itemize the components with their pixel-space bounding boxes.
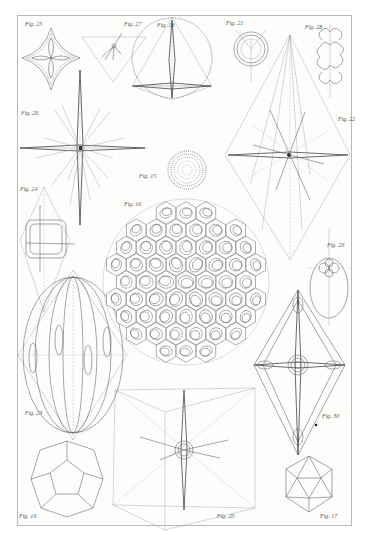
label-fig25: Fig. 25 (25, 21, 42, 27)
label-fig21: Fig. 21 (226, 20, 243, 26)
label-fig20: Fig. 20 (217, 513, 234, 519)
label-fig17: Fig. 17 (320, 513, 337, 519)
label-fig27: Fig. 27 (124, 21, 141, 27)
label-fig15: Fig. 15 (139, 173, 156, 179)
label-fig23: Fig. 23 (25, 410, 42, 416)
label-fig24: Fig. 24 (20, 186, 37, 192)
label-fig22: Fig. 22 (338, 116, 355, 122)
label-fig30: Fig. 30 (322, 413, 339, 419)
fig16-lattice (0, 0, 368, 535)
label-fig28: Fig. 28 (305, 24, 322, 30)
label-fig19: Fig. 19 (19, 513, 36, 519)
label-fig18: Fig. 18 (157, 22, 174, 28)
label-fig29: Fig. 29 (327, 242, 344, 248)
label-fig16: Fig. 16 (124, 201, 141, 207)
label-fig26: Fig. 26 (21, 110, 38, 116)
